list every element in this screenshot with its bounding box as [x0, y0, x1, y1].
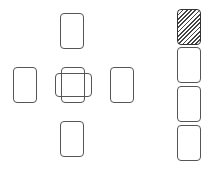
stock-pile-card-back[interactable]: [177, 9, 201, 45]
card-slot-bottom[interactable]: [60, 121, 84, 157]
pile-slot-1[interactable]: [177, 47, 201, 83]
card-slot-right[interactable]: [110, 67, 134, 103]
pile-slot-3[interactable]: [177, 125, 201, 161]
card-slot-top[interactable]: [60, 13, 84, 49]
card-slot-left[interactable]: [13, 67, 37, 103]
game-board: [0, 0, 211, 170]
pile-slot-2[interactable]: [177, 86, 201, 122]
card-slot-center-horizontal[interactable]: [55, 73, 92, 97]
